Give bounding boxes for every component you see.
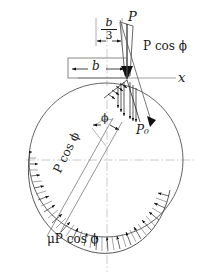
label-angle-phi: ϕ [101, 113, 109, 124]
label-normal-component: P cos ϕ [143, 40, 187, 52]
label-width-b: b [92, 60, 100, 72]
label-friction-component: μP cos ϕ [47, 233, 99, 245]
label-pressure-P0: P₀ [136, 124, 149, 136]
label-axis-x: x [178, 71, 185, 84]
eccentricity-denominator: 3 [100, 30, 118, 42]
label-eccentricity-fraction: b 3 [100, 17, 118, 42]
mechanics-force-diagram: P x b b 3 ϕ P₀ P cos ϕ P cos ϕ μP cos ϕ [0, 0, 209, 280]
eccentricity-numerator: b [100, 17, 118, 29]
pressure-distribution-triangle [104, 80, 140, 122]
label-load-P: P [128, 10, 137, 23]
